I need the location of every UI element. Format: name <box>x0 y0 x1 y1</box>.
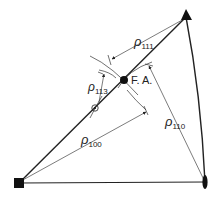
fiber-axis-dot <box>120 76 128 84</box>
rho-111-arrow <box>112 19 184 59</box>
tick-100 <box>144 106 148 115</box>
tick-110 <box>145 64 153 66</box>
label-fiber-axis: F. A. <box>131 74 152 86</box>
label-rho-113: ρ113 <box>87 80 108 96</box>
label-rho-110: ρ110 <box>164 114 186 131</box>
stereographic-triangle-diagram: ρ111 ρ113 ρ100 ρ110 F. A. <box>0 0 220 201</box>
distance-lines <box>21 19 204 181</box>
pole-113-dot <box>94 107 96 109</box>
triangle-icon <box>181 9 192 20</box>
edge-100-110 <box>19 182 205 183</box>
edge-100-111 <box>19 17 186 183</box>
square-icon <box>14 178 24 188</box>
triangle-edges <box>19 17 205 183</box>
tick-113 <box>98 72 103 74</box>
edge-111-110-arc <box>186 17 205 182</box>
lens-icon <box>202 175 207 189</box>
label-rho-111: ρ111 <box>133 34 154 51</box>
label-rho-100: ρ100 <box>80 132 102 149</box>
tick-111 <box>108 55 111 65</box>
